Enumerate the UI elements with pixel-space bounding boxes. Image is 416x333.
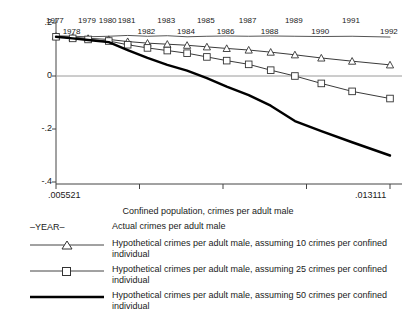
year-point-label: 1977 [46,16,64,25]
x-tick-label-min: .005521 [48,190,81,200]
series-hyp50 [56,37,390,156]
legend-item-hyp25: Hypothetical crimes per adult male, assu… [0,265,416,290]
year-point-label: 1992 [380,27,398,36]
year-point-label: 1989 [285,16,303,25]
legend-item-hyp10: Hypothetical crimes per adult male, assu… [0,239,416,264]
figure: .2 0 -.2 -.4 .005521 .013111 Confined po… [0,0,416,333]
chart-legend: –YEAR– Actual crimes per adult male Hypo… [0,222,416,317]
y-tick-label: 0 [20,70,52,80]
legend-key-triangle-line [28,239,106,251]
legend-key-thick-line [28,291,106,303]
legend-item-hyp50: Hypothetical crimes per adult male, assu… [0,291,416,316]
year-point-label: 1984 [177,27,195,36]
year-point-label: 1988 [261,27,279,36]
year-point-label: 1990 [311,27,329,36]
x-axis-title: Confined population, crimes per adult ma… [0,206,416,216]
year-point-label: 1982 [137,27,155,36]
year-point-label: 1981 [118,16,136,25]
year-point-label: 1978 [63,27,81,36]
year-point-label: 1991 [342,16,360,25]
year-point-label: 1986 [217,27,235,36]
legend-key-year-text: –YEAR– [30,222,65,232]
axes [52,18,402,189]
year-point-label: 1987 [239,16,257,25]
y-tick-label: -.4 [20,176,52,186]
legend-label: Hypothetical crimes per adult male, assu… [112,264,408,286]
legend-key-square-line [28,265,106,277]
legend-label: Hypothetical crimes per adult male, assu… [112,290,408,312]
legend-item-actual: –YEAR– Actual crimes per adult male [0,222,416,238]
year-point-label: 1985 [197,16,215,25]
x-tick-label-max: .013111 [355,190,386,200]
legend-label: Actual crimes per adult male [112,221,408,232]
year-point-label: 1980 [99,16,117,25]
y-tick-label: -.2 [20,123,52,133]
year-point-label: 1983 [157,16,175,25]
year-point-label: 1979 [78,16,96,25]
legend-label: Hypothetical crimes per adult male, assu… [112,238,408,260]
series-hyp25 [53,33,394,101]
